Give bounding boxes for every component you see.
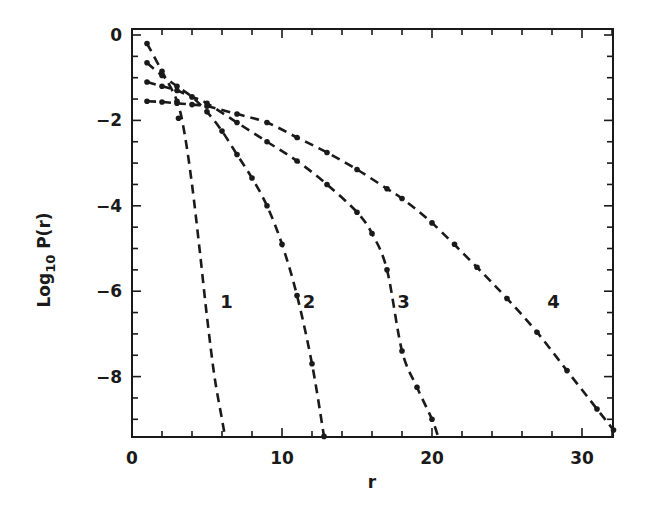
data-point: [264, 120, 270, 126]
data-point: [176, 115, 182, 121]
data-point: [294, 135, 300, 141]
data-point: [309, 361, 315, 367]
data-point: [189, 94, 195, 100]
data-point: [369, 231, 375, 237]
curve-1: [147, 44, 225, 437]
data-point: [294, 158, 300, 164]
data-point: [324, 150, 330, 156]
y-tick-label: −8: [96, 367, 122, 387]
data-point: [159, 99, 165, 105]
data-point: [452, 241, 458, 247]
data-point: [144, 98, 150, 104]
data-point: [414, 384, 420, 390]
y-axis-title-base: Log: [34, 273, 54, 308]
data-point: [159, 73, 165, 79]
x-axis-title: r: [368, 472, 377, 492]
data-point: [594, 406, 600, 412]
data-point: [429, 417, 435, 423]
data-point: [219, 128, 225, 134]
data-point: [234, 120, 240, 126]
data-point: [249, 175, 255, 181]
data-point: [399, 196, 405, 202]
data-point: [354, 167, 360, 173]
data-point: [174, 101, 180, 107]
y-axis-tick-labels: 0−2−4−6−8: [96, 25, 122, 387]
curve-4: [147, 101, 614, 430]
data-point: [174, 88, 180, 94]
data-point: [429, 220, 435, 226]
data-point: [354, 209, 360, 215]
data-point: [144, 60, 150, 66]
data-point: [234, 111, 240, 117]
data-point: [384, 267, 390, 273]
y-axis-title-subscript: 10: [43, 255, 58, 273]
data-point: [474, 264, 480, 270]
y-tick-label: −4: [96, 196, 122, 216]
data-point: [189, 102, 195, 108]
data-point: [144, 41, 150, 47]
data-point: [204, 109, 210, 115]
data-point: [504, 296, 510, 302]
y-tick-label: 0: [110, 25, 122, 45]
data-point: [324, 182, 330, 188]
data-point: [234, 152, 240, 158]
y-axis-title-rest: P(r): [34, 212, 54, 254]
x-axis-tick-labels: 0102030: [126, 448, 594, 468]
data-point: [534, 329, 540, 335]
data-point: [144, 79, 150, 85]
x-tick-label: 20: [420, 448, 444, 468]
data-point: [279, 241, 285, 247]
y-tick-label: −2: [96, 110, 122, 130]
data-point: [264, 139, 270, 145]
chart: 0102030 0−2−4−6−8 1234 r Log10 P(r): [0, 0, 646, 515]
data-point: [294, 293, 300, 299]
data-point: [384, 186, 390, 192]
curve-label-4: 4: [547, 291, 560, 312]
x-tick-label: 0: [126, 448, 138, 468]
data-point: [399, 348, 405, 354]
curve-label-1: 1: [220, 291, 233, 312]
curve-label-2: 2: [303, 291, 316, 312]
data-point: [159, 83, 165, 89]
y-tick-label: −6: [96, 281, 122, 301]
x-tick-label: 10: [270, 448, 294, 468]
data-point: [264, 203, 270, 209]
curve-2: [147, 63, 324, 437]
y-axis-title: Log10 P(r): [34, 212, 58, 307]
curve-label-3: 3: [397, 291, 410, 312]
data-point: [564, 368, 570, 374]
x-tick-label: 30: [570, 448, 594, 468]
data-point: [204, 104, 210, 110]
curves: [147, 44, 614, 437]
